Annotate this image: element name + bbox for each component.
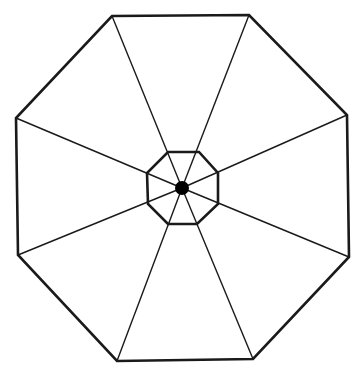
umbrella-diagram	[0, 0, 361, 373]
rib-line-7	[18, 188, 182, 255]
center-pole-dot	[175, 181, 189, 195]
rib-line-6	[117, 188, 182, 361]
